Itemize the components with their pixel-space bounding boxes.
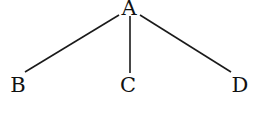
node-c: C [120, 73, 136, 97]
edge-a-b [25, 15, 119, 72]
node-b: B [10, 73, 25, 97]
node-d: D [232, 73, 249, 97]
tree-diagram: A B C D [0, 0, 261, 127]
edge-a-d [140, 15, 231, 72]
node-a: A [120, 0, 137, 20]
